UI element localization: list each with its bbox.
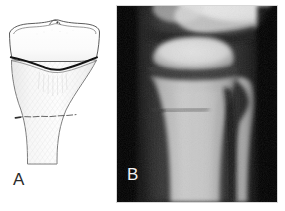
medical-figure: A — [0, 0, 285, 211]
knee-radiograph — [117, 6, 277, 202]
tibia-shaft-group — [12, 60, 97, 164]
panel-b: B — [116, 5, 278, 203]
panel-a: A — [0, 0, 115, 211]
proximal-tibia-line-drawing — [0, 0, 115, 175]
film-grain — [117, 6, 277, 202]
panel-a-label: A — [13, 171, 25, 188]
panel-b-label: B — [127, 166, 139, 183]
tibial-epiphysis — [10, 20, 100, 62]
